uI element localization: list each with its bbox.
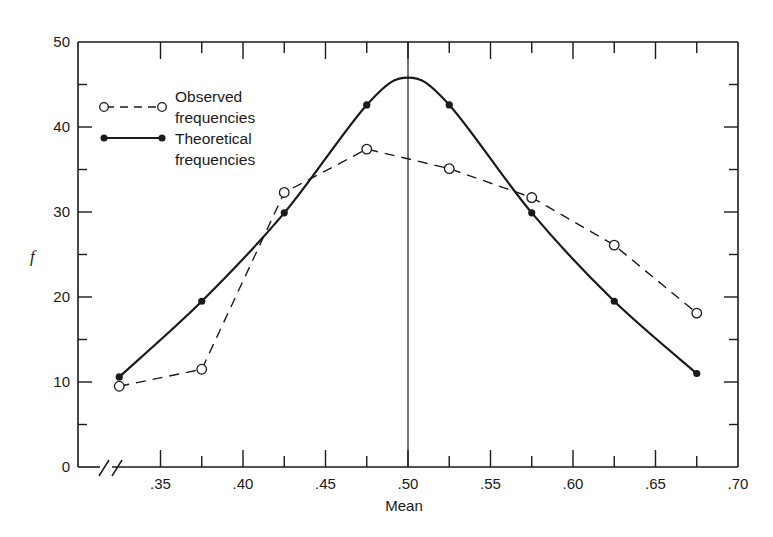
open-circle-icon: [158, 103, 167, 112]
theoretical-point: [116, 373, 123, 380]
frequency-chart: 01020304050.35.40.45.50.55.60.65.70 Obse…: [0, 0, 773, 537]
open-circle-icon: [100, 103, 109, 112]
legend-theoretical-label: Theoretical: [175, 130, 252, 147]
y-axis-label: f: [30, 247, 37, 266]
y-tick-label: 10: [53, 373, 70, 390]
observed-point: [197, 364, 207, 374]
theoretical-point: [528, 209, 535, 216]
observed-point: [609, 240, 619, 250]
x-axis-label: Mean: [385, 497, 423, 514]
observed-point: [362, 144, 372, 154]
axis-break-icon: [99, 460, 122, 476]
x-tick-label: .70: [728, 475, 749, 492]
y-tick-label: 20: [53, 288, 70, 305]
theoretical-point: [363, 101, 370, 108]
observed-point: [279, 188, 289, 198]
legend-observed-label-2: frequencies: [175, 109, 255, 126]
x-tick-label: .35: [150, 475, 171, 492]
tick-labels: 01020304050.35.40.45.50.55.60.65.70: [53, 33, 748, 492]
y-tick-label: 50: [53, 33, 70, 50]
legend-observed-label: Observed: [175, 88, 242, 105]
observed-point: [114, 381, 124, 391]
filled-circle-icon: [101, 135, 108, 142]
x-tick-label: .65: [645, 475, 666, 492]
x-tick-label: .55: [480, 475, 501, 492]
x-tick-label: .40: [233, 475, 254, 492]
theoretical-point: [198, 298, 205, 305]
legend-theoretical-label-2: frequencies: [175, 151, 255, 168]
x-tick-label: .50: [398, 475, 419, 492]
theoretical-point: [693, 370, 700, 377]
theoretical-point: [281, 209, 288, 216]
observed-point: [692, 308, 702, 318]
y-tick-label: 0: [62, 458, 70, 475]
theoretical-point: [446, 101, 453, 108]
observed-point: [444, 164, 454, 174]
x-tick-label: .45: [315, 475, 336, 492]
y-tick-label: 30: [53, 203, 70, 220]
y-tick-label: 40: [53, 118, 70, 135]
theoretical-point: [611, 298, 618, 305]
observed-point: [527, 193, 537, 203]
legend: Observed frequencies Theoretical frequen…: [100, 88, 256, 168]
filled-circle-icon: [159, 135, 166, 142]
x-tick-label: .60: [563, 475, 584, 492]
